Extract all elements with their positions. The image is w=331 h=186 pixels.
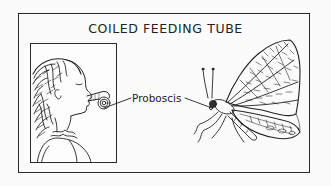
butterfly-illustration (0, 0, 331, 186)
